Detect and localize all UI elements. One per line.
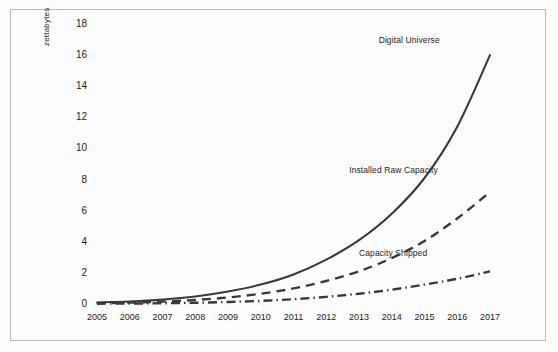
chart-figure: zettabytes 024681012141618 2005200620072… — [0, 0, 558, 352]
series-line-1 — [97, 192, 490, 303]
series-line-0 — [97, 55, 490, 302]
plot-area — [0, 0, 558, 352]
